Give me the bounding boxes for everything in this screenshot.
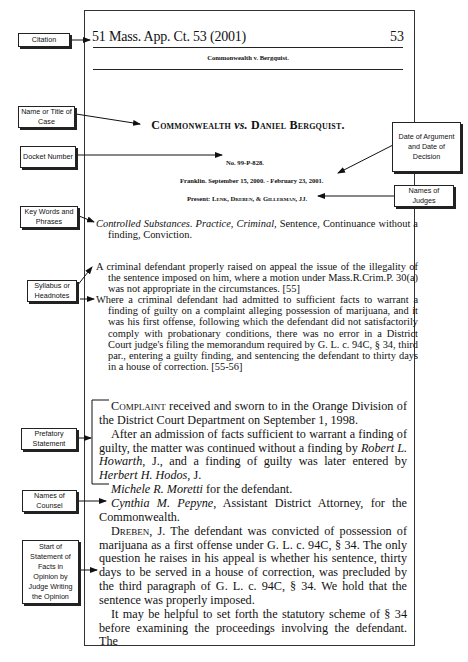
history-text-b: , J., and a finding of guilty was later … (142, 454, 407, 468)
opinion-paragraph-1: Dreben, J. The defendant was convicted o… (99, 525, 407, 607)
page-number: 53 (390, 29, 404, 45)
prefatory-complaint: Complaint received and sworn to in the O… (99, 400, 407, 427)
judges-names: Lenk, Dreben, & Gillerman, JJ. (212, 195, 307, 202)
label-names-of-counsel: Names of Counsel (22, 490, 77, 512)
citation: 51 Mass. App. Ct. 53 (2001) (92, 29, 246, 45)
label-argument-decision-dates: Date of Argument and Date of Decision (392, 122, 461, 172)
defense-counsel-name: Michele R. Moretti (111, 482, 203, 496)
opinion-paragraph-2: It may be helpful to set forth the statu… (99, 608, 407, 649)
case-title-party2: Daniel Bergquist. (251, 118, 345, 132)
label-docket-number: Docket Number (20, 146, 76, 168)
key-words-plain-2: finding, Conviction. (108, 229, 192, 240)
headnote-1: A criminal defendant properly raised on … (96, 261, 418, 295)
label-citation: Citation (18, 33, 70, 47)
case-title-vs: vs. (234, 118, 248, 132)
key-words-plain: Sentence, Continuance without a (277, 218, 418, 229)
case-title: Commonwealth vs. Daniel Bergquist. (93, 118, 403, 133)
judges-line: Present: Lenk, Dreben, & Gillerman, JJ. (187, 195, 307, 202)
label-judges: Names of Judges (394, 185, 454, 207)
prosecution-counsel-name: Cynthia M. Pepyne (111, 496, 213, 510)
label-key-words: Key Words and Phrases (20, 206, 78, 228)
prosecution-counsel: Cynthia M. Pepyne, Assistant District At… (99, 497, 407, 524)
key-words: Controlled Substances. Practice, Crimina… (96, 218, 418, 240)
argument-decision-dates: Franklin. September 15, 2000. - February… (180, 177, 323, 184)
label-statement-of-facts: Start of Statement of Facts in Opinion b… (22, 540, 79, 604)
defense-counsel: Michele R. Moretti for the defendant. (99, 483, 407, 497)
header-rule-top (93, 47, 403, 48)
judges-prefix: Present: (187, 195, 210, 202)
header-rule-bottom (93, 69, 403, 70)
label-prefatory-statement: Prefatory Statement (21, 428, 77, 450)
label-syllabus-headnotes: Syllabus or Headnotes (27, 280, 77, 302)
defense-counsel-role: for the defendant. (203, 482, 292, 496)
running-head: Commonwealth v. Bergquist. (93, 54, 403, 61)
headnote-2: Where a criminal defendant had admitted … (96, 294, 418, 372)
history-text-c: , J. (187, 468, 201, 482)
key-words-italic: Controlled Substances. Practice, Crimina… (96, 218, 277, 229)
trial-judge-2: Herbert H. Hodos (99, 468, 187, 482)
case-title-party1: Commonwealth (151, 118, 231, 132)
label-case-name: Name or Title of Case (18, 106, 75, 128)
complaint-lead: Complaint (111, 399, 166, 413)
prefatory-procedural-history: After an admission of facts sufficient t… (99, 428, 407, 483)
docket-number: No. 99-P-828. (226, 159, 264, 166)
opinion-author: Dreben (111, 524, 149, 538)
